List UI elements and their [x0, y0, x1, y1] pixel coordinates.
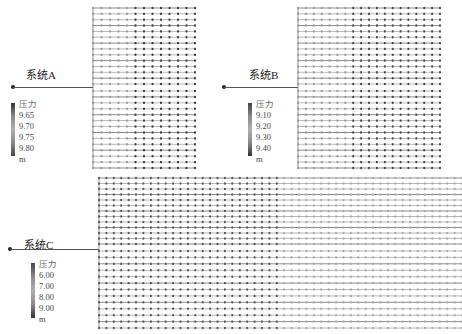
system-a-main-pipe — [13, 87, 93, 88]
system-b-color-bar — [248, 103, 252, 156]
legend-tick: 9.30 — [256, 132, 274, 143]
legend-tick: 9.00 — [39, 303, 57, 314]
system-b-main-pipe — [224, 87, 298, 88]
legend-unit: m — [39, 314, 57, 325]
legend-title: 压力 — [256, 99, 274, 110]
legend-tick: 9.70 — [19, 121, 37, 132]
legend-tick: 6.00 — [39, 270, 57, 281]
system-c-main-pipe — [10, 249, 99, 250]
legend-unit: m — [19, 154, 37, 165]
legend-tick: 9.65 — [19, 110, 37, 121]
system-b-lateral-grid — [297, 7, 441, 169]
system-a-lateral-grid — [92, 7, 196, 169]
system-a-label: 系统A — [26, 66, 56, 82]
legend-unit: m — [256, 154, 274, 165]
system-a-pressure-legend: 压力 9.65 9.70 9.75 9.80 m — [11, 99, 51, 159]
system-c-lateral-grid — [98, 177, 462, 329]
system-b-label: 系统B — [249, 66, 278, 82]
legend-tick: 9.10 — [256, 110, 274, 121]
legend-tick: 9.75 — [19, 132, 37, 143]
system-c-pressure-legend: 压力 6.00 7.00 8.00 9.00 m — [31, 259, 71, 325]
legend-tick: 8.00 — [39, 292, 57, 303]
system-a-color-bar — [11, 103, 15, 156]
legend-tick: 9.40 — [256, 143, 274, 154]
legend-title: 压力 — [39, 259, 57, 270]
legend-title: 压力 — [19, 99, 37, 110]
system-b-pressure-legend: 压力 9.10 9.20 9.30 9.40 m — [248, 99, 288, 159]
legend-tick: 9.20 — [256, 121, 274, 132]
legend-tick: 9.80 — [19, 143, 37, 154]
system-c-color-bar — [31, 263, 35, 318]
legend-tick: 7.00 — [39, 281, 57, 292]
